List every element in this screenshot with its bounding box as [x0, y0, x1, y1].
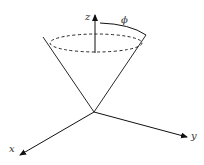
- y-label: y: [190, 130, 197, 141]
- cone-diagram: z ϕ y x: [0, 0, 204, 165]
- x-label: x: [9, 143, 15, 154]
- phi-label: ϕ: [121, 14, 128, 25]
- cone-rim-ellipse: [50, 34, 142, 52]
- cone-left-edge: [43, 37, 94, 112]
- y-axis-arrow: [94, 112, 187, 137]
- z-label: z: [84, 11, 91, 22]
- x-axis-arrow: [20, 112, 94, 155]
- diagram-canvas: z ϕ y x: [0, 0, 204, 165]
